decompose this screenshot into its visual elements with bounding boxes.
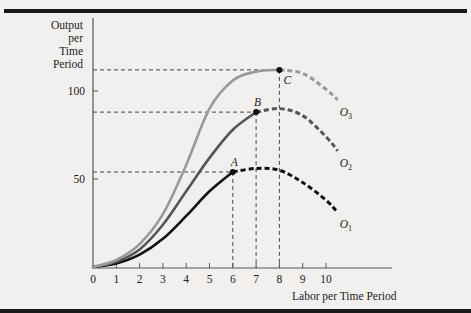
y-tick-label: 100 (68, 85, 86, 97)
curve-label-o2: O2 (340, 157, 352, 172)
point-a (230, 169, 236, 175)
point-label-c: C (283, 74, 291, 86)
x-tick-label: 7 (253, 273, 259, 285)
x-tick-label: 6 (230, 273, 236, 285)
plot-area: 01234567891050100 O1O2O3ABC (0, 0, 471, 313)
x-tick-label: 4 (183, 273, 189, 285)
x-tick-label: 0 (90, 273, 96, 285)
x-tick-label: 1 (113, 273, 119, 285)
point-label-a: A (230, 156, 239, 168)
curve-label-o1: O1 (340, 218, 352, 233)
curve-o1-solid (93, 172, 233, 267)
point-label-b: B (254, 96, 261, 108)
point-c (276, 67, 282, 73)
x-tick-label: 2 (137, 273, 143, 285)
curve-o1-dashed (233, 168, 338, 212)
x-axis-label: Labor per Time Period (292, 290, 396, 302)
x-tick-label: 10 (320, 273, 332, 285)
curve-o2-dashed (256, 109, 338, 151)
x-tick-label: 9 (300, 273, 306, 285)
x-tick-label: 5 (207, 273, 213, 285)
point-b (253, 109, 259, 115)
curves (93, 70, 338, 267)
x-tick-label: 3 (160, 273, 166, 285)
y-tick-label: 50 (74, 173, 86, 185)
x-tick-label: 8 (277, 273, 283, 285)
curve-label-o3: O3 (340, 106, 352, 121)
axes: 01234567891050100 (68, 18, 392, 285)
